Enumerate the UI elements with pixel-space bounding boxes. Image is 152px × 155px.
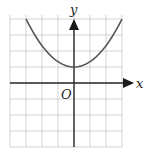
y-axis-label: y bbox=[69, 2, 78, 17]
x-axis-arrow-icon bbox=[123, 78, 134, 88]
y-axis-arrow-icon bbox=[69, 19, 79, 30]
x-axis-label: x bbox=[136, 76, 144, 91]
function-graph: x y O bbox=[0, 0, 152, 155]
origin-label: O bbox=[61, 87, 72, 102]
grid bbox=[10, 15, 122, 147]
